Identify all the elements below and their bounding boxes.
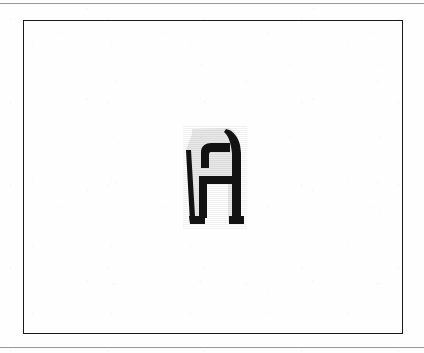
- figure-frame: [23, 20, 403, 334]
- letter-a-glyph: [183, 126, 247, 229]
- scanned-page: [0, 0, 424, 353]
- letter-a-svg: [183, 126, 247, 229]
- top-rule: [0, 3, 424, 4]
- bottom-rule: [0, 347, 424, 348]
- glyph-right-foot: [229, 216, 244, 224]
- glyph-crossbar: [199, 176, 233, 218]
